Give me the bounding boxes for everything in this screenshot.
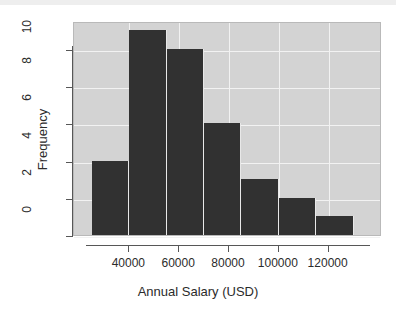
x-tick-mark <box>328 246 329 252</box>
y-axis-line <box>72 46 73 237</box>
histogram-bar <box>279 198 316 235</box>
y-tick-mark <box>66 162 72 163</box>
gridline-horizontal <box>74 51 380 52</box>
histogram-screenshot: Frequency 0246810 4000060000800001000001… <box>0 0 396 314</box>
y-tick-mark <box>66 50 72 51</box>
x-tick-mark <box>128 246 129 252</box>
histogram-bar <box>316 216 353 235</box>
x-tick-mark <box>278 246 279 252</box>
x-tick-mark <box>228 246 229 252</box>
y-axis-title: Frequency <box>35 60 50 220</box>
gridline-horizontal <box>74 88 380 89</box>
gridline-vertical <box>329 23 330 235</box>
y-tick-mark <box>66 236 72 237</box>
x-tick-label: 120000 <box>298 256 358 270</box>
histogram-bar <box>129 30 166 235</box>
y-tick-mark <box>66 124 72 125</box>
y-tick-mark <box>66 199 72 200</box>
gridline-horizontal <box>74 237 380 238</box>
plot-inner <box>74 23 380 235</box>
histogram-bar <box>167 49 204 235</box>
x-tick-mark <box>178 246 179 252</box>
plot-area <box>73 22 381 236</box>
histogram-bar <box>204 123 241 235</box>
x-axis-title: Annual Salary (USD) <box>0 284 396 299</box>
histogram-bar <box>92 161 129 235</box>
y-tick-label: 10 <box>20 20 34 80</box>
scan-artifact-band <box>0 0 396 5</box>
y-tick-mark <box>66 87 72 88</box>
histogram-bar <box>241 179 278 235</box>
